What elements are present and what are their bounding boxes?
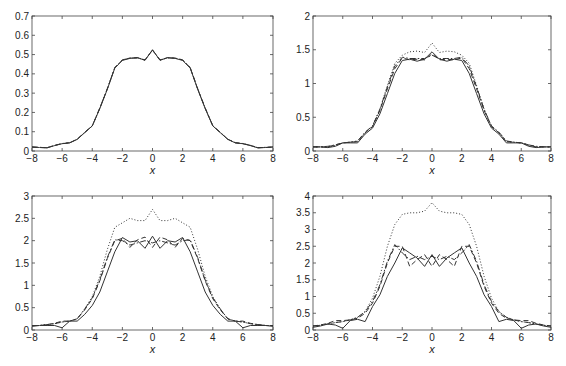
series-dashdot-line	[32, 50, 273, 147]
series-solid-line	[313, 248, 551, 328]
x-axis-label: x	[428, 343, 435, 355]
series-dotted-line	[313, 43, 551, 147]
y-tick-label: 2.5	[296, 241, 310, 252]
x-tick-label: 4	[210, 153, 216, 164]
y-tick-label: 0.1	[15, 126, 29, 137]
y-tick-label: 2.5	[15, 213, 29, 224]
axes-box	[313, 196, 551, 330]
x-tick-label: −4	[367, 153, 379, 164]
x-tick-label: −2	[397, 153, 409, 164]
y-tick-label: 3.5	[296, 207, 310, 218]
x-axis-label: x	[149, 343, 156, 355]
x-tick-label: −4	[87, 332, 99, 343]
x-tick-label: 0	[429, 332, 435, 343]
panel-bottom-left: −8−6−4−20246800.511.522.53x	[15, 191, 276, 356]
series-dotted-line	[313, 203, 551, 326]
y-tick-label: 1.5	[15, 258, 29, 269]
x-tick-label: 0	[150, 332, 156, 343]
y-tick-label: 1.5	[296, 274, 310, 285]
y-tick-label: 1.5	[296, 44, 310, 55]
x-tick-label: −6	[337, 332, 349, 343]
series-solid-line	[32, 50, 273, 148]
x-tick-label: 2	[180, 332, 186, 343]
axes-box	[32, 196, 273, 330]
series-dashdot-line	[313, 55, 551, 147]
x-tick-label: −6	[56, 332, 68, 343]
series-solid-line	[32, 236, 273, 328]
figure: −8−6−4−20246800.10.20.30.40.50.60.7x −8−…	[0, 0, 566, 366]
y-tick-label: 0	[23, 325, 29, 336]
x-axis-label: x	[428, 164, 435, 176]
series-dashed-line	[32, 237, 273, 325]
y-tick-label: 2	[304, 258, 310, 269]
x-tick-label: 4	[489, 153, 495, 164]
y-tick-label: 0	[304, 325, 310, 336]
y-tick-label: 0.6	[15, 30, 29, 41]
panel-bottom-right: −8−6−4−20246800.511.522.533.54x	[296, 191, 554, 356]
x-tick-label: 4	[210, 332, 216, 343]
series-dashed-line	[313, 246, 551, 326]
y-tick-label: 0.7	[15, 11, 29, 22]
series-solid-line	[313, 52, 551, 148]
y-tick-label: 3	[23, 191, 29, 202]
x-tick-label: 8	[270, 332, 276, 343]
y-tick-label: 0.2	[15, 107, 29, 118]
axes-box	[313, 16, 551, 151]
x-tick-label: 6	[240, 332, 246, 343]
y-tick-label: 0.5	[15, 302, 29, 313]
series-dashed-line	[313, 54, 551, 147]
x-tick-label: 0	[150, 153, 156, 164]
y-tick-label: 1	[23, 280, 29, 291]
x-tick-label: 2	[459, 153, 465, 164]
y-tick-label: 0	[23, 146, 29, 157]
y-tick-label: 3	[304, 224, 310, 235]
x-tick-label: −6	[56, 153, 68, 164]
series-dotted-line	[32, 209, 273, 325]
axes-box	[32, 16, 273, 151]
panel-top-right: −8−6−4−20246800.511.52x	[296, 11, 554, 177]
y-tick-label: 2	[23, 235, 29, 246]
y-tick-label: 2	[304, 11, 310, 22]
y-tick-label: 0.5	[296, 308, 310, 319]
series-dashed-line	[32, 50, 273, 148]
x-tick-label: −4	[87, 153, 99, 164]
x-tick-label: −2	[117, 332, 129, 343]
y-tick-label: 0.4	[15, 68, 29, 79]
x-tick-label: −2	[397, 332, 409, 343]
x-tick-label: 2	[180, 153, 186, 164]
x-tick-label: 0	[429, 153, 435, 164]
series-dashdot-line	[32, 240, 273, 326]
x-tick-label: 8	[548, 153, 554, 164]
panel-top-left: −8−6−4−20246800.10.20.30.40.50.60.7x	[15, 11, 276, 177]
x-tick-label: 6	[518, 153, 524, 164]
x-tick-label: 4	[489, 332, 495, 343]
x-axis-label: x	[149, 164, 156, 176]
y-tick-label: 0.5	[296, 112, 310, 123]
y-tick-label: 1	[304, 78, 310, 89]
x-tick-label: 6	[240, 153, 246, 164]
x-tick-label: 8	[548, 332, 554, 343]
y-tick-label: 0	[304, 146, 310, 157]
x-tick-label: −4	[367, 332, 379, 343]
y-tick-label: 0.3	[15, 88, 29, 99]
y-tick-label: 4	[304, 191, 310, 202]
x-tick-label: −6	[337, 153, 349, 164]
y-tick-label: 1	[304, 291, 310, 302]
x-tick-label: 8	[270, 153, 276, 164]
x-tick-label: −2	[117, 153, 129, 164]
y-tick-label: 0.5	[15, 49, 29, 60]
series-dashdot-line	[313, 245, 551, 326]
x-tick-label: 2	[459, 332, 465, 343]
x-tick-label: 6	[518, 332, 524, 343]
